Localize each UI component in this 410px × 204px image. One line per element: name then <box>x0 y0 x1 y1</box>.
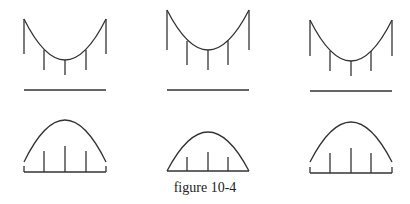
figure-diagram <box>0 0 410 204</box>
figure-caption: figure 10-4 <box>0 180 410 196</box>
arch-diagram-1 <box>24 120 106 172</box>
arch-diagram-2 <box>167 132 249 171</box>
sag-diagram-1 <box>24 19 106 90</box>
arch-diagram-3 <box>310 122 392 173</box>
sag-diagram-2 <box>167 10 249 90</box>
sag-diagram-3 <box>310 20 392 91</box>
